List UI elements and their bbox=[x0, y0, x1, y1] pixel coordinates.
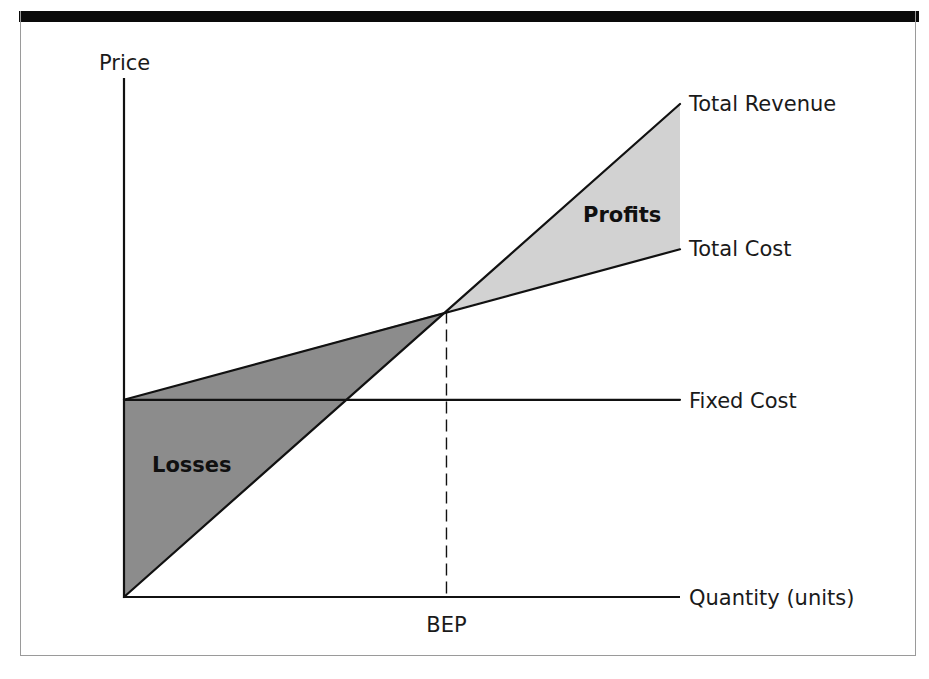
total-cost-line bbox=[124, 249, 680, 400]
total-cost-label: Total Cost bbox=[688, 237, 791, 261]
losses-label: Losses bbox=[152, 453, 232, 477]
total-revenue-line bbox=[124, 104, 680, 597]
y-axis-label: Price bbox=[99, 51, 150, 75]
break-even-chart: Price Quantity (units) Total Revenue Tot… bbox=[0, 0, 929, 679]
profits-label: Profits bbox=[583, 203, 661, 227]
fixed-cost-label: Fixed Cost bbox=[689, 389, 797, 413]
x-axis-label: Quantity (units) bbox=[689, 586, 854, 610]
total-revenue-label: Total Revenue bbox=[688, 92, 836, 116]
bep-label: BEP bbox=[426, 613, 466, 637]
